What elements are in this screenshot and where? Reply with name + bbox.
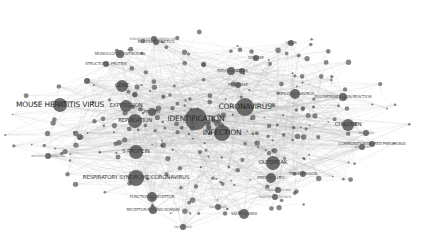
minor-node	[151, 144, 153, 146]
minor-node	[42, 144, 45, 147]
minor-node	[264, 117, 266, 119]
minor-node	[221, 182, 225, 186]
minor-node	[207, 100, 212, 105]
minor-node	[182, 61, 187, 66]
minor-node	[144, 124, 148, 128]
minor-node	[215, 178, 217, 180]
minor-node	[272, 139, 274, 141]
minor-node	[310, 38, 312, 40]
minor-node	[12, 144, 15, 147]
label-replicase: REPLICASE	[228, 83, 248, 87]
minor-node	[345, 106, 349, 110]
minor-node	[54, 148, 56, 150]
minor-node	[115, 152, 117, 154]
minor-node	[248, 89, 250, 91]
minor-node	[31, 144, 33, 146]
minor-node	[184, 104, 186, 106]
label-cells: CELLS	[236, 69, 247, 73]
minor-node	[265, 149, 267, 151]
minor-node	[161, 143, 166, 148]
minor-node	[161, 121, 164, 124]
minor-node	[316, 176, 321, 181]
minor-node	[179, 186, 183, 190]
minor-node	[164, 45, 168, 49]
minor-node	[302, 157, 304, 159]
minor-node	[346, 131, 350, 135]
minor-node	[73, 142, 78, 147]
minor-node	[103, 125, 106, 128]
label-coronavirus: CORONAVIRUS	[218, 103, 271, 111]
minor-node	[295, 108, 299, 112]
minor-node	[328, 121, 330, 123]
minor-node	[112, 123, 117, 128]
minor-node	[386, 108, 388, 110]
minor-node	[343, 87, 347, 91]
minor-node	[312, 113, 317, 118]
label-identification: IDENTIFICATION	[168, 115, 225, 123]
minor-node	[348, 162, 350, 164]
label-symptoms: SYMPTOMS	[354, 146, 369, 149]
minor-node	[272, 148, 277, 153]
minor-node	[292, 126, 296, 130]
minor-node	[316, 135, 320, 139]
network-visualization: CORONAVIRUSINFECTIONIDENTIFICATIONMOUSE …	[0, 0, 428, 240]
minor-node	[301, 134, 307, 140]
label-protein: PROTEIN	[144, 110, 160, 114]
label-community-acquired-pneumonia: COMMUNITY-ACQUIRED PNEUMONIA	[339, 142, 406, 146]
minor-node	[235, 168, 240, 173]
minor-node	[153, 129, 156, 132]
minor-node	[225, 98, 227, 100]
label-replication: REPLICATION	[118, 118, 152, 124]
minor-node	[312, 105, 315, 108]
minor-node	[211, 177, 215, 181]
minor-node	[173, 85, 176, 88]
label-infection: INFECTION	[203, 129, 242, 137]
minor-node	[188, 97, 192, 101]
minor-node	[276, 124, 279, 127]
minor-node	[305, 127, 308, 130]
minor-node	[194, 184, 198, 188]
minor-node	[285, 52, 289, 56]
minor-node	[306, 113, 311, 118]
minor-node	[149, 90, 151, 92]
minor-node	[12, 114, 14, 116]
minor-node	[342, 178, 345, 181]
minor-node	[243, 142, 247, 146]
minor-node	[65, 172, 69, 176]
minor-node	[152, 85, 157, 90]
minor-node	[337, 105, 340, 108]
minor-node	[108, 98, 111, 101]
minor-node	[330, 79, 333, 82]
minor-node	[137, 129, 140, 132]
minor-node	[282, 114, 284, 116]
minor-node	[282, 133, 286, 137]
minor-node	[249, 49, 254, 54]
minor-node	[175, 130, 179, 134]
minor-node	[101, 117, 106, 122]
minor-node	[229, 49, 233, 53]
minor-node	[93, 84, 95, 86]
minor-node	[408, 123, 411, 126]
label-nucleocapsid-protein: NUCLEOCAPSID PROTEIN	[31, 155, 65, 158]
minor-node	[250, 115, 255, 120]
minor-node	[309, 124, 311, 126]
minor-node	[200, 166, 202, 168]
minor-node	[371, 103, 373, 105]
minor-node	[92, 119, 96, 123]
minor-node	[230, 180, 232, 182]
minor-node	[207, 155, 209, 157]
label-sars-coronavirus: SARS CORONAVIRUS	[276, 92, 314, 96]
minor-node	[116, 155, 121, 160]
minor-node	[52, 117, 57, 122]
label-children: CHILDREN	[335, 122, 362, 128]
minor-node	[326, 49, 331, 54]
minor-node	[257, 146, 259, 148]
minor-node	[192, 137, 194, 139]
minor-node	[238, 48, 243, 53]
minor-node	[24, 93, 29, 98]
minor-node	[197, 212, 200, 215]
minor-node	[220, 156, 223, 159]
minor-node	[269, 206, 274, 211]
minor-node	[223, 211, 227, 215]
label-rna: RNA	[84, 80, 90, 83]
